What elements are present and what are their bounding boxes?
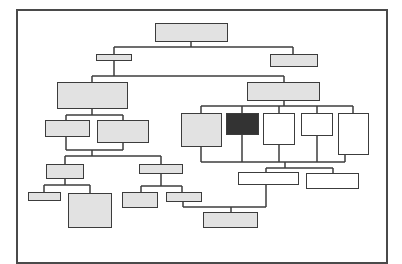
node-l3-right-e — [338, 113, 369, 155]
node-l5-left-a2 — [68, 193, 112, 228]
node-l3-left-a — [45, 120, 90, 137]
node-l3-right-c — [263, 113, 295, 145]
node-l5-left-b1 — [122, 192, 158, 208]
node-l4-right-b — [306, 173, 359, 189]
node-l5-bottom — [203, 212, 258, 228]
node-l3-left-b — [97, 120, 149, 143]
node-l1-right — [270, 54, 318, 67]
node-l3-right-a — [181, 113, 222, 147]
node-l3-right-b — [226, 113, 259, 135]
node-l5-left-b2 — [166, 192, 202, 202]
node-l2-right — [247, 82, 320, 101]
node-root — [155, 23, 228, 42]
node-l4-left-a — [46, 164, 84, 179]
node-l4-right-a — [238, 172, 299, 185]
node-l1-left — [96, 54, 132, 61]
node-l3-right-d — [301, 113, 333, 136]
node-l2-left — [57, 82, 128, 109]
node-l4-left-b — [139, 164, 183, 174]
node-l5-left-a1 — [28, 192, 61, 201]
